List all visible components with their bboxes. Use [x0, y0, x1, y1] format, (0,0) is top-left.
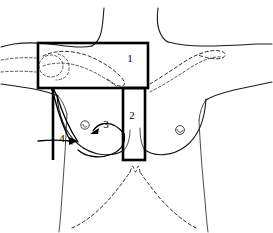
field-label-2: 2: [129, 109, 135, 121]
clavicle-dashed-left: [43, 51, 124, 86]
torso-outline-right: [199, 120, 208, 232]
radiation-field-diagram: 1 2 3 4: [0, 0, 273, 233]
arm-outline-left: [1, 84, 58, 96]
rib-dashed-left-1: [1, 58, 36, 60]
ribcage-dashed-outline-right: [140, 172, 196, 228]
arm-outline-right: [206, 82, 272, 100]
breast-outline-right: [144, 99, 206, 155]
neck-outline-left: [92, 8, 104, 46]
rib-dashed-left-2: [1, 71, 36, 72]
clavicle-dashed-left-lower: [43, 63, 116, 86]
clavicle-dashed-right-lower: [150, 57, 222, 92]
field-labels-group: 1 2: [127, 52, 135, 121]
diagram-canvas: 1 2 3 4: [0, 0, 273, 233]
xiphoid-notch-dashed: [130, 166, 140, 172]
nipple-right-inner: [177, 129, 183, 132]
neck-outline-right: [157, 8, 168, 42]
breast-upper-slope-right: [140, 128, 144, 149]
field-label-1: 1: [127, 52, 133, 64]
ribcage-dashed-outline: [72, 172, 130, 228]
clavicle-dashed-right: [150, 51, 225, 84]
field-rect-2[interactable]: [123, 88, 145, 160]
arrow-4-tangent-curve: [53, 88, 78, 142]
arrow-label-3: 3: [103, 118, 109, 130]
arrow-label-4: 4: [59, 132, 65, 144]
field-rect-1[interactable]: [38, 43, 148, 88]
nipple-left: [81, 121, 89, 129]
anatomy-group: [1, 8, 272, 232]
nipple-left-inner: [83, 124, 87, 127]
shoulder-outline-right: [168, 42, 272, 46]
